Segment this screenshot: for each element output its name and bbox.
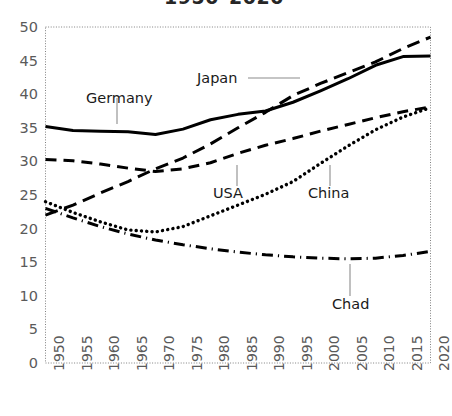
y-tick-label: 5 (2, 322, 38, 337)
y-tick-label: 40 (2, 87, 38, 102)
series-label-japan: Japan (197, 71, 237, 86)
x-tick-label: 2010 (382, 335, 396, 371)
series-label-usa: USA (213, 186, 243, 201)
series-line-chad (46, 208, 431, 258)
y-tick-label: 0 (2, 356, 38, 371)
x-tick-label: 1995 (300, 335, 314, 371)
y-tick-label: 35 (2, 121, 38, 136)
x-tick-label: 1980 (217, 335, 231, 371)
y-tick-label: 15 (2, 255, 38, 270)
y-tick-label: 45 (2, 54, 38, 69)
y-tick-label: 25 (2, 188, 38, 203)
x-tick-label: 1975 (190, 335, 204, 371)
x-tick-label: 1965 (135, 335, 149, 371)
x-tick-label: 1990 (272, 335, 286, 371)
y-tick-label: 10 (2, 289, 38, 304)
series-label-china: China (308, 186, 349, 201)
x-tick-label: 2015 (410, 335, 424, 371)
series-label-germany: Germany (86, 91, 153, 106)
x-tick-label: 1985 (245, 335, 259, 371)
x-tick-label: 2005 (355, 335, 369, 371)
x-tick-label: 1960 (107, 335, 121, 371)
y-tick-label: 20 (2, 222, 38, 237)
series-label-chad: Chad (332, 297, 369, 312)
x-tick-label: 2000 (327, 335, 341, 371)
y-tick-label: 50 (2, 20, 38, 35)
x-tick-label: 1970 (162, 335, 176, 371)
y-tick-label: 30 (2, 154, 38, 169)
x-tick-label: 2020 (437, 335, 451, 371)
x-tick-label: 1955 (80, 335, 94, 371)
series-line-usa (46, 107, 431, 172)
x-tick-label: 1950 (52, 335, 66, 371)
